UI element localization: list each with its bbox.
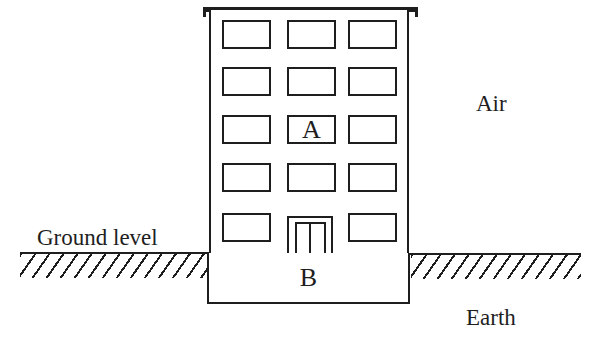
building-window (287, 20, 336, 49)
building-window (222, 213, 271, 242)
building-window (222, 115, 271, 144)
label-air: Air (476, 91, 507, 116)
roof-end-tick-right (415, 7, 418, 17)
label-point-b: B (300, 265, 317, 291)
building-window (222, 20, 271, 49)
roof-end-tick-left (203, 7, 206, 17)
building-door-panels (295, 222, 326, 257)
building-window (348, 20, 397, 49)
building-window (222, 67, 271, 96)
diagram-canvas: A B Ground level Air Earth (0, 0, 594, 344)
building-window (348, 163, 397, 192)
building-window (287, 163, 336, 192)
building-window (348, 213, 397, 242)
building-window (348, 67, 397, 96)
label-point-a: A (302, 117, 321, 143)
building-window (348, 115, 397, 144)
building-window (222, 163, 271, 192)
building-basement: B (207, 253, 410, 304)
label-earth: Earth (466, 305, 516, 330)
label-ground-level: Ground level (37, 225, 158, 250)
earth-hatching-right (411, 255, 581, 279)
building-window-a: A (287, 115, 336, 144)
building-window (287, 67, 336, 96)
earth-hatching-left (20, 254, 207, 278)
